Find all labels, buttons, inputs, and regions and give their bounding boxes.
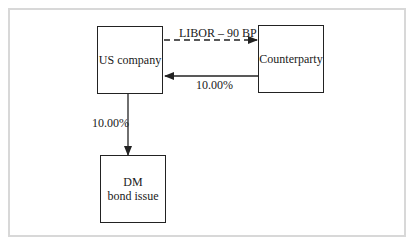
libor-label: LIBOR – 90 BP <box>179 26 257 41</box>
dm-bond-label-line1: DM <box>123 175 142 189</box>
us-company-label: US company <box>99 53 161 67</box>
counterparty-rate-label: 10.00% <box>196 78 233 93</box>
us-company-node: US company <box>97 26 163 94</box>
counterparty-label: Counterparty <box>259 52 322 66</box>
bond-rate-label: 10.00% <box>92 116 129 131</box>
dm-bond-node: DM bond issue <box>100 155 166 223</box>
dm-bond-label-line2: bond issue <box>108 189 159 203</box>
counterparty-node: Counterparty <box>258 25 324 93</box>
